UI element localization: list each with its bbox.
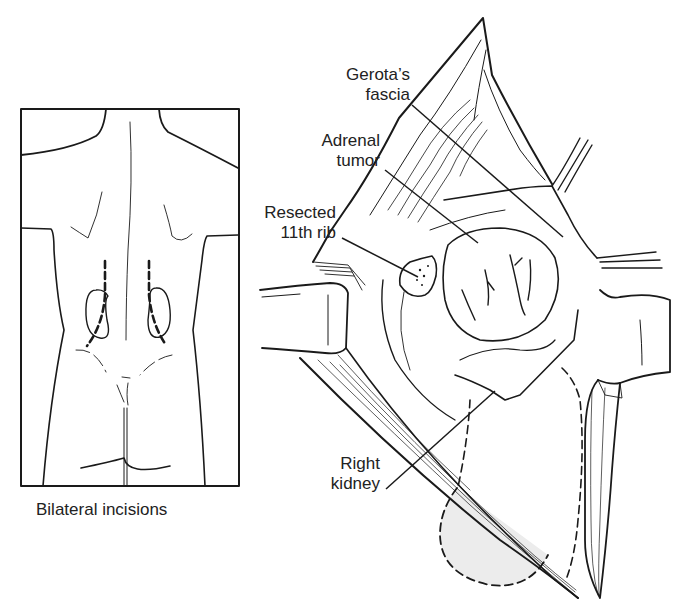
resected-rib — [400, 256, 437, 296]
label-gerota-line2: fascia — [300, 85, 410, 105]
adrenal-tumor — [443, 228, 558, 341]
label-rib-line1: Resected — [228, 203, 336, 223]
label-kidney-line2: kidney — [300, 474, 380, 494]
right-retractor — [598, 290, 670, 384]
right-incision-dashed — [149, 261, 166, 345]
kidney-leader — [386, 391, 495, 489]
label-rib-line2: 11th rib — [228, 223, 336, 243]
left-incision-dashed — [87, 261, 105, 346]
label-gerota-line1: Gerota’s — [300, 65, 410, 85]
label-right-kidney: Right kidney — [300, 454, 380, 494]
label-kidney-line1: Right — [300, 454, 380, 474]
label-gerota: Gerota’s fascia — [300, 65, 410, 105]
left-retractor — [260, 283, 348, 353]
inset-back-view — [21, 109, 239, 486]
inset-frame — [21, 109, 239, 486]
label-adrenal-line2: tumor — [275, 151, 380, 171]
label-adrenal-tumor: Adrenal tumor — [275, 131, 380, 171]
surgical-field — [260, 18, 670, 598]
inset-caption: Bilateral incisions — [36, 500, 167, 520]
gerota-leader — [412, 105, 563, 237]
label-adrenal-line1: Adrenal — [275, 131, 380, 151]
lower-right-wound-flap — [585, 380, 620, 598]
label-resected-rib: Resected 11th rib — [228, 203, 336, 243]
